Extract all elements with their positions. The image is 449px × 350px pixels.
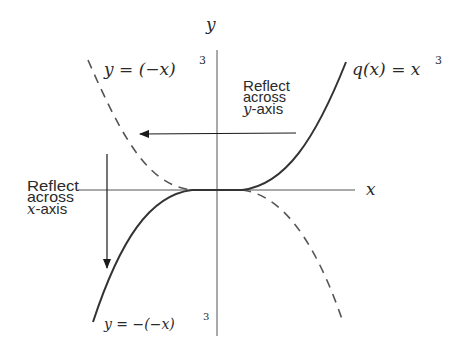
svg-text:y = (−x): y = (−x) (103, 59, 176, 79)
curve-original-cubic (93, 62, 346, 322)
annotation-reflect-x: Reflect across x-axis (27, 177, 80, 218)
annotation-reflect-y: Reflect across y-axis (242, 77, 291, 118)
cubic-reflection-diagram: x y y = (−x) 3 q(x) = x 3 y = −(−x) 3 Re… (0, 0, 449, 350)
reflect-y-arrow (140, 133, 296, 134)
label-original-curve: q(x) = x 3 (352, 54, 442, 79)
label-reflect-y-curve: y = (−x) 3 (103, 54, 206, 79)
x-axis-label: x (366, 179, 376, 199)
svg-text:y-axis: y-axis (242, 100, 283, 118)
svg-text:3: 3 (199, 54, 206, 67)
svg-text:3: 3 (435, 54, 442, 67)
svg-text:3: 3 (203, 311, 209, 322)
y-axis-label: y (205, 14, 216, 34)
svg-text:y = −(−x): y = −(−x) (103, 316, 175, 332)
svg-text:q(x) = x: q(x) = x (352, 59, 421, 79)
svg-text:x-axis: x-axis (27, 200, 67, 218)
label-reflect-xy-curve: y = −(−x) 3 (103, 311, 209, 332)
